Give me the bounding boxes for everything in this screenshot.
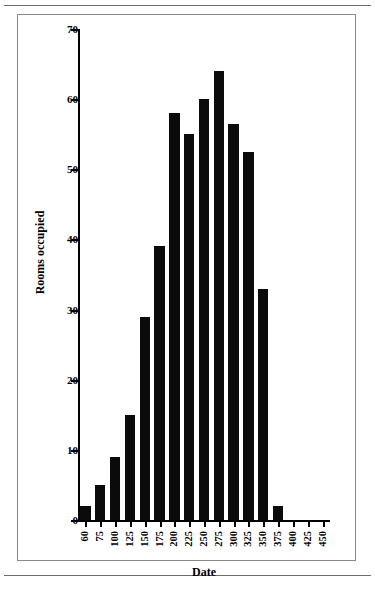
x-tick (189, 520, 191, 527)
x-tick-label: 275 (214, 531, 225, 547)
x-tick (293, 520, 295, 527)
x-tick-label: 60 (80, 531, 91, 542)
y-tick-label: 40 (52, 234, 78, 245)
x-tick-label: 300 (229, 531, 240, 547)
bar (243, 152, 253, 520)
y-tick-label: 20 (52, 375, 78, 386)
x-tick (204, 520, 206, 527)
y-tick-label: 30 (52, 305, 78, 316)
x-tick-label: 325 (243, 531, 254, 547)
bar (214, 71, 224, 520)
x-tick (263, 520, 265, 527)
bar (199, 99, 209, 520)
y-tick-label: 60 (52, 94, 78, 105)
x-tick (85, 520, 87, 527)
bar (184, 134, 194, 520)
x-tick-label: 225 (184, 531, 195, 547)
x-tick (160, 520, 162, 527)
x-tick (130, 520, 132, 527)
x-tick-label: 400 (288, 531, 299, 547)
x-tick-label: 125 (125, 531, 136, 547)
y-axis-line (78, 29, 80, 520)
bar (154, 246, 164, 520)
bar-chart: 010203040506070 607510012515017520022525… (0, 0, 375, 597)
x-tick (115, 520, 117, 527)
x-tick (323, 520, 325, 527)
y-tick-label: 70 (52, 24, 78, 35)
bar (140, 317, 150, 520)
x-tick-label: 200 (169, 531, 180, 547)
bar (273, 506, 283, 520)
x-tick (278, 520, 280, 527)
x-axis-title: Date (78, 565, 330, 580)
x-tick-label: 250 (199, 531, 210, 547)
x-tick-label: 150 (140, 531, 151, 547)
x-tick (145, 520, 147, 527)
y-tick-label: 0 (52, 515, 78, 526)
x-tick-label: 100 (110, 531, 121, 547)
bar (80, 506, 90, 520)
bar (169, 113, 179, 520)
x-tick-label: 350 (258, 531, 269, 547)
y-axis-title: Rooms occupied (33, 183, 48, 323)
bar (110, 457, 120, 520)
x-tick (308, 520, 310, 527)
x-tick-label: 75 (95, 531, 106, 542)
x-tick-label: 375 (273, 531, 284, 547)
bar (258, 289, 268, 520)
x-tick (174, 520, 176, 527)
x-tick-label: 425 (303, 531, 314, 547)
x-tick (219, 520, 221, 527)
x-tick (248, 520, 250, 527)
x-tick (100, 520, 102, 527)
x-tick-label: 175 (155, 531, 166, 547)
bar (95, 485, 105, 520)
bar (125, 415, 135, 520)
y-tick-label: 50 (52, 164, 78, 175)
x-tick (234, 520, 236, 527)
x-tick-label: 450 (318, 531, 329, 547)
bar (228, 124, 238, 520)
y-tick-label: 10 (52, 445, 78, 456)
